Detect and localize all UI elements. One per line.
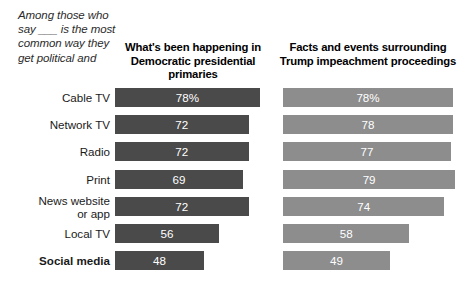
bar-value-label: 48 [115, 251, 204, 270]
chart-row: Local TV5658 [0, 224, 465, 251]
chart-row: News website or app7274 [0, 197, 465, 224]
bar-value-label: 49 [283, 251, 390, 270]
bar-impeachment: 74 [283, 197, 444, 216]
chart-row: Radio7277 [0, 142, 465, 169]
bar-primaries: 72 [115, 197, 249, 216]
bar-value-label: 72 [115, 142, 249, 161]
bar-primaries: 72 [115, 142, 249, 161]
chart-rows: Cable TV78%78%Network TV7278Radio7277Pri… [0, 88, 465, 278]
bar-value-label: 78 [283, 115, 453, 134]
chart-container: Among those who say ___ is the most comm… [0, 0, 465, 295]
row-label: Radio [2, 146, 110, 159]
bar-impeachment: 77 [283, 142, 451, 161]
bar-primaries: 56 [115, 224, 219, 243]
bar-value-label: 78% [115, 88, 260, 107]
bar-value-label: 79 [283, 170, 455, 189]
bar-impeachment: 78% [283, 88, 453, 107]
chart-row: Network TV7278 [0, 115, 465, 142]
row-label: Social media [2, 255, 110, 268]
bar-impeachment: 49 [283, 251, 390, 270]
row-label: Cable TV [2, 92, 110, 105]
bar-value-label: 78% [283, 88, 453, 107]
bar-impeachment: 58 [283, 224, 409, 243]
chart-row: Print6979 [0, 170, 465, 197]
bar-value-label: 77 [283, 142, 451, 161]
bar-value-label: 56 [115, 224, 219, 243]
bar-impeachment: 79 [283, 170, 455, 189]
bar-value-label: 74 [283, 197, 444, 216]
bar-value-label: 72 [115, 115, 249, 134]
row-label: Local TV [2, 228, 110, 241]
bar-value-label: 69 [115, 170, 243, 189]
bar-value-label: 58 [283, 224, 409, 243]
bar-value-label: 72 [115, 197, 249, 216]
bar-impeachment: 78 [283, 115, 453, 134]
chart-row: Cable TV78%78% [0, 88, 465, 115]
intro-note: Among those who say ___ is the most comm… [18, 8, 126, 65]
chart-row: Social media4849 [0, 251, 465, 278]
row-label: Print [2, 174, 110, 187]
row-label: Network TV [2, 119, 110, 132]
bar-primaries: 69 [115, 170, 243, 189]
column-header-primaries: What's been happening in Democratic pres… [118, 41, 268, 82]
bar-primaries: 48 [115, 251, 204, 270]
bar-primaries: 78% [115, 88, 260, 107]
row-label: News website or app [2, 195, 110, 221]
bar-primaries: 72 [115, 115, 249, 134]
column-header-impeachment: Facts and events surrounding Trump impea… [278, 41, 458, 68]
